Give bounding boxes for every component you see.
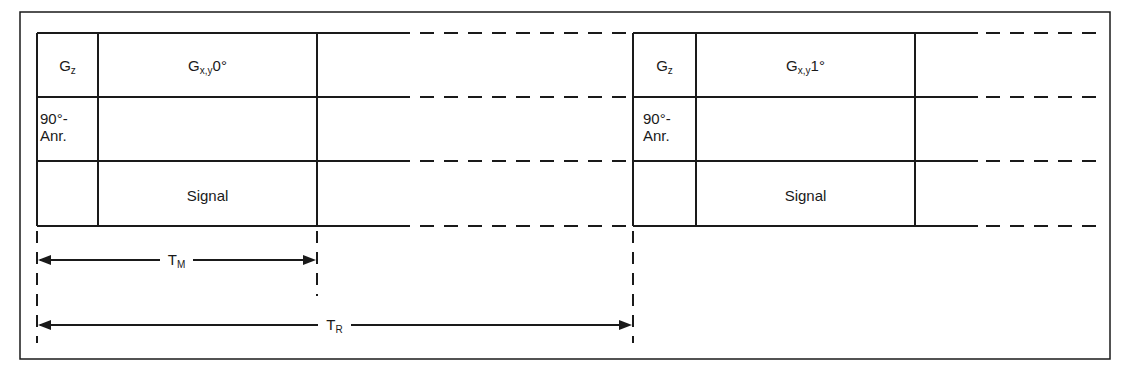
arrowhead-right-tr: [619, 320, 632, 330]
arrowhead-left-tm: [38, 255, 51, 265]
arrowhead-right-tm: [303, 255, 316, 265]
arrowhead-left-tr: [38, 320, 51, 330]
pulse-label-1: 90°-Anr.: [40, 110, 98, 144]
tr-label: TR: [318, 316, 351, 333]
pulse-label-2: 90°-Anr.: [643, 110, 696, 144]
tm-label: TM: [160, 251, 193, 268]
gxy-label-2: Gx,y1°: [696, 57, 915, 74]
gz-label-2: Gz: [633, 57, 696, 74]
gz-label-1: Gz: [37, 57, 98, 74]
signal-label-1: Signal: [98, 187, 317, 204]
gxy-label-1: Gx,y0°: [98, 57, 317, 74]
signal-label-2: Signal: [696, 187, 915, 204]
